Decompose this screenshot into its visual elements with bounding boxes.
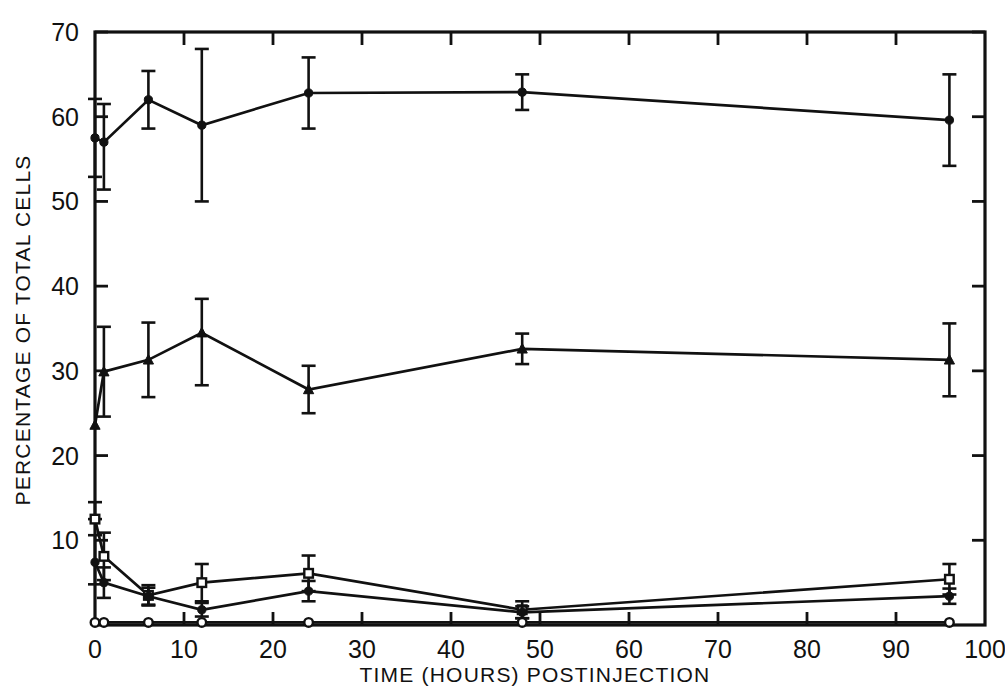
- y-tick-label: 30: [51, 357, 79, 385]
- data-point: [91, 515, 100, 524]
- y-tick-label: 60: [51, 103, 79, 131]
- y-tick-label: 50: [51, 187, 79, 215]
- data-point: [518, 618, 527, 627]
- x-tick-label: 60: [615, 635, 643, 663]
- data-point: [304, 618, 313, 627]
- data-point: [945, 618, 954, 627]
- x-tick-label: 0: [88, 635, 102, 663]
- data-point: [305, 587, 313, 595]
- y-tick-label: 10: [51, 526, 79, 554]
- data-point: [100, 618, 109, 627]
- x-tick-label: 30: [348, 635, 376, 663]
- data-point: [198, 121, 206, 129]
- x-axis-label: TIME (HOURS) POSTINJECTION: [360, 663, 711, 686]
- data-point: [144, 592, 152, 600]
- data-point: [198, 578, 207, 587]
- data-point: [518, 608, 526, 616]
- data-point: [945, 116, 953, 124]
- data-point: [198, 618, 207, 627]
- x-tick-label: 20: [259, 635, 287, 663]
- y-axis-label: PERCENTAGE OF TOTAL CELLS: [11, 155, 34, 506]
- data-point: [518, 88, 526, 96]
- data-point: [91, 134, 99, 142]
- x-tick-label: 80: [793, 635, 821, 663]
- y-tick-label: 40: [51, 272, 79, 300]
- x-tick-label: 70: [704, 635, 732, 663]
- x-tick-label: 40: [437, 635, 465, 663]
- y-tick-label: 70: [51, 18, 79, 46]
- data-point: [100, 552, 109, 561]
- data-point: [91, 618, 100, 627]
- x-tick-label: 100: [964, 635, 1005, 663]
- data-point: [100, 138, 108, 146]
- x-tick-label: 90: [882, 635, 910, 663]
- figure-container: 0102030405060708090100 10203040506070 TI…: [0, 0, 1005, 699]
- line-chart: 0102030405060708090100 10203040506070 TI…: [0, 0, 1005, 699]
- y-tick-label: 20: [51, 442, 79, 470]
- x-tick-label: 50: [526, 635, 554, 663]
- data-point: [305, 89, 313, 97]
- data-point: [100, 579, 108, 587]
- x-tick-label: 10: [170, 635, 198, 663]
- data-point: [945, 575, 954, 584]
- data-point: [144, 96, 152, 104]
- data-point: [198, 606, 206, 614]
- data-point: [945, 592, 953, 600]
- data-point: [91, 558, 99, 566]
- data-point: [144, 618, 153, 627]
- data-point: [304, 569, 313, 578]
